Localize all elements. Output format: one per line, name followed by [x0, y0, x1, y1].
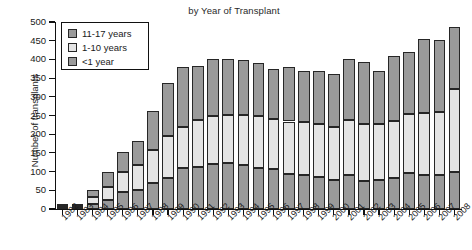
bar-segment [403, 52, 415, 114]
bar-segment [238, 115, 250, 165]
bar-segment [449, 27, 461, 89]
y-tick-label: 250 [6, 111, 46, 121]
bar-segment [222, 59, 234, 114]
chart-title: by Year of Transplant [0, 0, 468, 16]
legend-label: 1-10 years [82, 43, 127, 53]
bar-segment [253, 116, 265, 168]
bar-segment [313, 71, 325, 124]
legend-swatch-icon [68, 43, 77, 52]
bar-segment [102, 172, 114, 187]
bar-segment [87, 190, 99, 196]
bar-segment [449, 89, 461, 172]
bar-segment [132, 141, 144, 165]
bar-segment [343, 59, 355, 120]
bar-segment [328, 74, 340, 127]
bar-segment [147, 111, 159, 150]
bar-segment [403, 114, 415, 173]
bar-segment [117, 152, 129, 171]
legend-label: 11-17 years [82, 29, 131, 39]
y-tick-label: 50 [6, 185, 46, 195]
y-tick [49, 40, 55, 41]
bar-segment [162, 136, 174, 178]
bar-segment [268, 69, 280, 119]
y-tick-label: 150 [6, 148, 46, 158]
y-tick-label: 200 [6, 129, 46, 139]
bar-segment [192, 66, 204, 120]
bar-segment [434, 40, 446, 112]
bar-segment [192, 120, 204, 167]
y-tick-label: 500 [6, 17, 46, 27]
bar-segment [102, 187, 114, 200]
bar-segment [283, 67, 295, 122]
bar-segment [132, 165, 144, 190]
y-tick-label: 350 [6, 73, 46, 83]
y-tick [49, 96, 55, 97]
bar-segment [313, 124, 325, 177]
bar-segment [162, 83, 174, 136]
bar-segment [388, 56, 400, 121]
y-tick [49, 171, 55, 172]
legend-swatch-icon [68, 29, 77, 38]
legend-item[interactable]: 1-10 years [68, 41, 148, 54]
chart-legend: 11-17 years1-10 years<1 year [61, 22, 149, 70]
y-tick [49, 78, 55, 79]
bar-segment [418, 113, 430, 175]
bar-segment [434, 112, 446, 176]
bar-segment [207, 59, 219, 116]
bar-segment [388, 121, 400, 178]
bar-segment [298, 71, 310, 123]
bar-segment [373, 71, 385, 124]
y-tick [49, 190, 55, 191]
y-tick-label: 450 [6, 36, 46, 46]
bar-segment [222, 115, 234, 164]
bar-segment [117, 172, 129, 192]
y-tick [49, 134, 55, 135]
y-tick [49, 208, 55, 209]
chart-title-line-main: by Year of Transplant [0, 4, 468, 16]
bar-segment [238, 60, 250, 115]
bar-segment [177, 67, 189, 128]
legend-item[interactable]: <1 year [68, 55, 148, 68]
legend-item[interactable]: 11-17 years [68, 27, 148, 40]
y-tick-label: 100 [6, 167, 46, 177]
y-tick [49, 115, 55, 116]
bar-segment [358, 62, 370, 124]
y-tick [49, 59, 55, 60]
bar-segment [177, 127, 189, 167]
bar-segment [373, 124, 385, 180]
bar-segment [207, 116, 219, 164]
bar-segment [268, 119, 280, 168]
y-tick-label: 0 [6, 204, 46, 214]
bar-segment [328, 127, 340, 179]
legend-label: <1 year [82, 57, 114, 67]
bar-segment [343, 120, 355, 175]
bar-segment [358, 124, 370, 180]
bar-segment [253, 63, 265, 116]
y-tick-label: 400 [6, 54, 46, 64]
y-tick [49, 152, 55, 153]
y-tick-label: 300 [6, 92, 46, 102]
bar-segment [147, 150, 159, 183]
y-tick [49, 21, 55, 22]
legend-swatch-icon [68, 57, 77, 66]
bar-segment [283, 122, 295, 174]
bar-segment [298, 122, 310, 174]
bar-segment [418, 39, 430, 112]
